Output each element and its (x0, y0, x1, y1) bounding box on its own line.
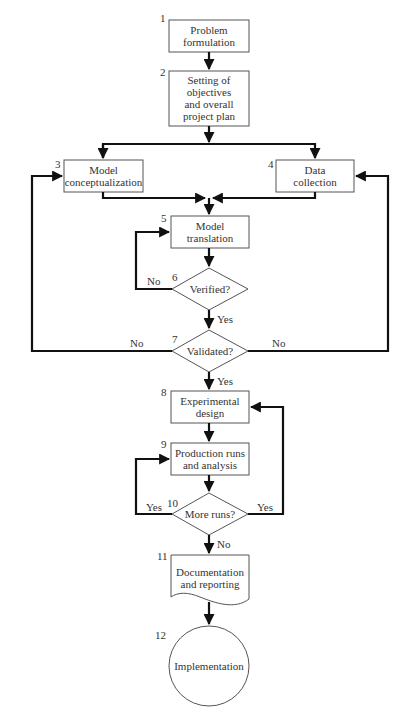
step-number-1: 1 (160, 13, 166, 24)
node-12-label: Implementation (169, 660, 249, 672)
node-8-line-2: design (171, 407, 249, 419)
node-1-line-2: formulation (169, 36, 249, 48)
node-3-line-1: Model (64, 164, 143, 176)
step-number-10: 10 (167, 498, 178, 509)
step-number-5: 5 (161, 213, 167, 224)
node-8-label: Experimental design (171, 395, 249, 419)
node-4-line-1: Data (276, 164, 354, 176)
edge-label-7-no-right: No (272, 338, 285, 349)
edge-label-6-no: No (147, 276, 160, 287)
step-number-7: 7 (172, 334, 178, 345)
node-3-line-2: conceptualization (64, 176, 143, 188)
edge-label-10-no: No (217, 539, 230, 550)
node-2-line-3: and overall (169, 98, 249, 110)
node-9-line-1: Production runs (171, 447, 249, 459)
node-2-label: Setting of objectives and overall projec… (169, 74, 249, 122)
node-6-label: Verified? (172, 283, 248, 295)
node-2-line-1: Setting of (169, 74, 249, 86)
node-9-label: Production runs and analysis (171, 447, 249, 471)
node-7-label: Validated? (172, 345, 248, 357)
step-number-9: 9 (161, 439, 167, 450)
edge-label-7-yes: Yes (217, 376, 233, 387)
node-5-line-2: translation (171, 232, 249, 244)
node-2-line-4: project plan (169, 110, 249, 122)
step-number-11: 11 (157, 551, 168, 562)
node-11-label: Documentation and reporting (171, 566, 249, 590)
step-number-8: 8 (161, 387, 167, 398)
step-number-4: 4 (268, 159, 274, 170)
node-4-label: Data collection (276, 164, 354, 188)
node-2-line-2: objectives (169, 86, 249, 98)
node-5-label: Model translation (171, 220, 249, 244)
node-9-line-2: and analysis (171, 459, 249, 471)
node-1-line-1: Problem (169, 24, 249, 36)
node-11-line-2: and reporting (171, 578, 249, 590)
edge-label-7-no-left: No (130, 338, 143, 349)
step-number-2: 2 (160, 67, 166, 78)
node-10-label: More runs? (172, 508, 248, 520)
node-11-line-1: Documentation (171, 566, 249, 578)
step-number-3: 3 (55, 159, 61, 170)
node-5-line-1: Model (171, 220, 249, 232)
step-number-6: 6 (172, 272, 178, 283)
step-number-12: 12 (155, 630, 166, 641)
node-3-label: Model conceptualization (64, 164, 143, 188)
node-1-label: Problem formulation (169, 24, 249, 48)
node-8-line-1: Experimental (171, 395, 249, 407)
edge-label-10-yes-left: Yes (146, 502, 162, 513)
edge-label-10-yes-right: Yes (257, 502, 273, 513)
edge-label-6-yes: Yes (217, 314, 233, 325)
node-4-line-2: collection (276, 176, 354, 188)
